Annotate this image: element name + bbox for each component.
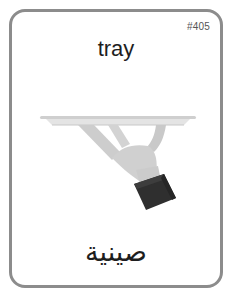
tray-shape xyxy=(40,116,196,125)
hand-holding-tray-icon xyxy=(38,100,198,210)
card-number: #405 xyxy=(187,21,210,32)
card-title-arabic: صينية xyxy=(12,236,220,267)
card-title-english: tray xyxy=(12,36,220,62)
vocabulary-card: #405 tray xyxy=(9,9,223,288)
